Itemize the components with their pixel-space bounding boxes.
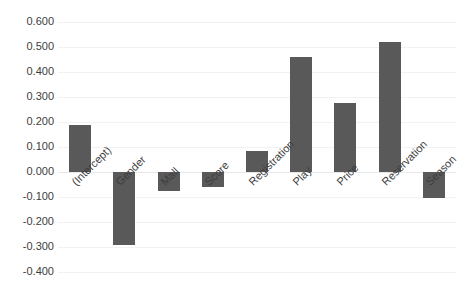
y-axis-tick-label: 0.400 [8, 66, 54, 77]
plot-area: 0.6000.5000.4000.3000.2000.1000.000-0.10… [58, 22, 456, 272]
gridline [58, 22, 456, 23]
y-axis-tick-label: -0.100 [8, 191, 54, 202]
y-axis-tick-label: 0.200 [8, 116, 54, 127]
y-axis-tick-label: 0.500 [8, 41, 54, 52]
bar [290, 57, 312, 172]
y-axis-tick-label: 0.000 [8, 166, 54, 177]
y-axis-tick-label: 0.600 [8, 16, 54, 27]
gridline [58, 247, 456, 248]
gridline [58, 272, 456, 273]
y-axis-tick-label: -0.300 [8, 241, 54, 252]
y-axis-tick-label: -0.400 [8, 266, 54, 277]
bar-chart: 0.6000.5000.4000.3000.2000.1000.000-0.10… [0, 0, 462, 293]
y-axis-tick-label: 0.100 [8, 141, 54, 152]
bar [334, 103, 356, 172]
y-axis-tick-label: -0.200 [8, 216, 54, 227]
bar [379, 42, 401, 172]
y-axis-tick-label: 0.300 [8, 91, 54, 102]
